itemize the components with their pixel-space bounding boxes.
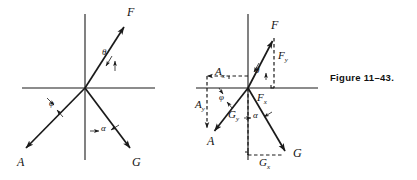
figure-container: F A G θ φ α F A G Fy Fx Ax Ay Gy Gx θ φ … [0,0,417,180]
left-vector-label-F: F [127,6,134,18]
right-angle-label-alpha: α [253,111,258,120]
component-base-A: A [195,98,202,110]
left-vector-F [85,27,124,88]
left-angle-label-phi: φ [49,99,54,108]
component-base-F: F [257,91,264,103]
right-vector-label-G: G [293,147,302,159]
component-sub-x: x [267,163,270,171]
right-component-label-Fy: Fy [278,50,288,64]
right-angle-label-phi: φ [219,93,224,102]
component-sub-y: y [236,115,239,123]
component-sub-x: x [222,72,225,80]
component-sub-y: y [202,105,205,113]
component-sub-y: y [285,56,288,64]
figure-canvas [0,0,417,180]
left-theta-leader-1 [106,56,112,66]
left-vector-G [85,88,130,148]
right-vector-label-F: F [271,19,278,31]
component-base-G: G [228,108,236,120]
right-alpha-leader-2 [264,112,272,117]
right-component-label-Ay: Ay [195,99,205,113]
right-component-label-Gx: Gx [259,157,270,171]
left-diagram-group [22,14,155,160]
right-angle-label-theta: θ [255,66,259,75]
right-component-label-Fx: Fx [257,92,267,106]
right-Gx-corner-tick [245,152,248,155]
figure-caption: Figure 11–43. [330,72,394,83]
component-sub-x: x [264,98,267,106]
component-base-A: A [215,65,222,77]
left-vector-A [26,88,85,148]
right-component-label-Gy: Gy [228,109,239,123]
left-vector-label-A: A [17,156,24,168]
component-base-F: F [278,49,285,61]
left-angle-label-alpha: α [101,124,106,133]
right-vector-label-A: A [207,135,214,147]
left-angle-label-theta: θ [102,48,106,57]
left-vector-label-G: G [132,156,141,168]
component-base-G: G [259,156,267,168]
right-vector-F [248,41,273,88]
right-component-label-Ax: Ax [215,66,225,80]
